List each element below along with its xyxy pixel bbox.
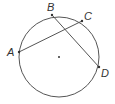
label-b: B — [47, 1, 54, 13]
chord-ac — [19, 21, 82, 52]
label-c: C — [84, 10, 92, 22]
point-d — [98, 66, 100, 68]
label-d: D — [101, 67, 109, 79]
circle-diagram: A B C D — [0, 0, 115, 104]
point-a — [18, 51, 20, 53]
point-c — [81, 20, 83, 22]
center-dot — [58, 56, 60, 58]
point-b — [51, 14, 53, 16]
chord-bd — [52, 15, 99, 67]
label-a: A — [6, 46, 14, 58]
